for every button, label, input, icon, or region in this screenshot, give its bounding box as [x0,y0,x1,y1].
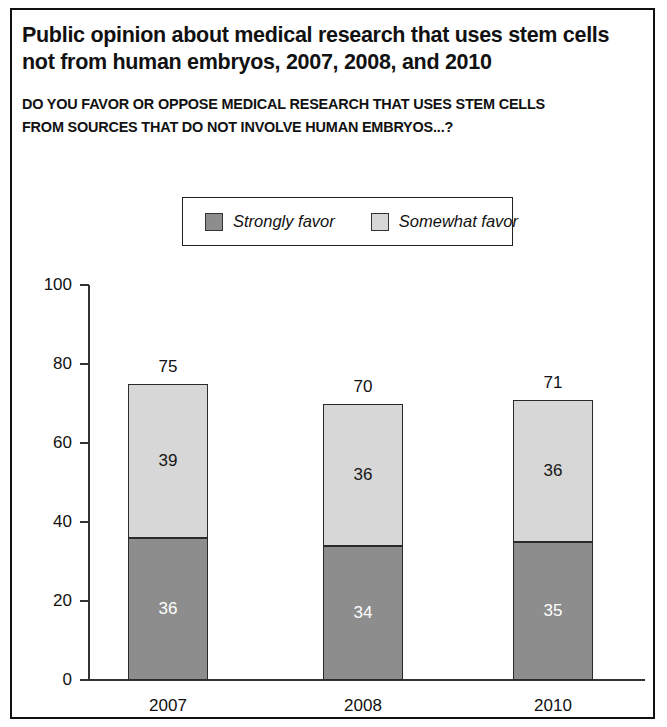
page-title-line-1: Public opinion about medical research th… [22,22,622,49]
legend-label-somewhat-favor: Somewhat favor [399,212,518,231]
legend-swatch-somewhat-favor [371,213,389,231]
legend-item-strongly-favor: Strongly favor [205,212,335,231]
legend-swatch-strongly-favor [205,213,223,231]
chart-subtitle-line-1: DO YOU FAVOR OR OPPOSE MEDICAL RESEARCH … [22,92,573,115]
legend-item-somewhat-favor: Somewhat favor [371,212,518,231]
chart-legend: Strongly favor Somewhat favor [182,197,513,246]
chart-subtitle: DO YOU FAVOR OR OPPOSE MEDICAL RESEARCH … [22,92,573,138]
chart-subtitle-line-2: FROM SOURCES THAT DO NOT INVOLVE HUMAN E… [22,115,573,138]
page-title: Public opinion about medical research th… [22,22,622,76]
page-title-line-2: not from human embryos, 2007, 2008, and … [22,49,622,76]
legend-label-strongly-favor: Strongly favor [233,212,335,231]
